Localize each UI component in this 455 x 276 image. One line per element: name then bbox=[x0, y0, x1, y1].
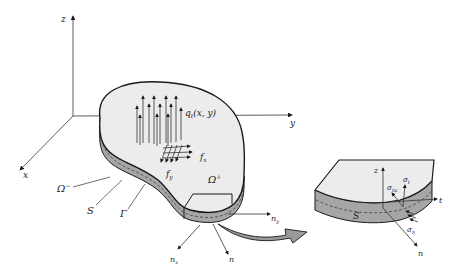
nx-vector bbox=[178, 225, 200, 249]
n-label: n bbox=[229, 255, 234, 264]
sigma-n-label: σn bbox=[407, 226, 415, 235]
ny-label: ny bbox=[271, 214, 279, 225]
z-axis-label: z bbox=[60, 14, 66, 24]
plate-boundary-diagram: z y x qt(x, y) fx fy bbox=[0, 0, 455, 276]
x-axis bbox=[20, 116, 73, 170]
zoom-arrow bbox=[218, 224, 307, 243]
detail-s-label: S bbox=[353, 211, 359, 221]
sigma-n-arrows-3 bbox=[410, 219, 418, 222]
detail-t-label: t bbox=[439, 196, 443, 205]
x-axis-label: x bbox=[23, 170, 28, 180]
leader-lines bbox=[73, 177, 145, 209]
detail-n-label: n bbox=[418, 249, 423, 258]
nx-label: nx bbox=[170, 255, 178, 265]
omega-minus-label: Ω− bbox=[56, 182, 70, 194]
y-axis-label: y bbox=[289, 118, 296, 128]
pressure-load-label: qt(x, y) bbox=[185, 108, 217, 119]
surface-s-label: S bbox=[87, 205, 94, 216]
detail-z-label: z bbox=[373, 166, 379, 175]
boundary-gamma-label: Γ bbox=[119, 208, 128, 219]
